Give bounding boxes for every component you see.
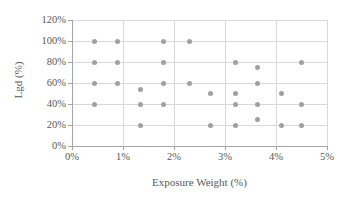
data-point [233,91,238,96]
data-point [208,123,213,128]
data-point [161,102,166,107]
y-axis-line [72,20,73,147]
data-point [187,39,192,44]
data-point [92,102,97,107]
y-axis-tick-label: 0% [52,141,66,152]
y-axis-title: Lgd (%) [12,45,24,115]
plot-area [72,20,327,146]
x-axis-tick-label: 5% [320,152,334,163]
data-point [115,60,120,65]
y-axis-tick-label: 60% [47,78,66,89]
y-axis-tick-label: 120% [42,15,67,26]
gridline-horizontal [72,125,327,126]
gridline-vertical [276,20,277,146]
data-point [161,81,166,86]
data-point [279,123,284,128]
gridline-horizontal [72,104,327,105]
data-point [115,81,120,86]
x-axis-line [72,146,328,147]
data-point [299,123,304,128]
y-axis-tick-label: 40% [47,99,66,110]
data-point [92,81,97,86]
data-point [299,60,304,65]
x-axis-tick-label: 4% [269,152,283,163]
data-point [255,81,260,86]
x-axis-title: Exposure Weight (%) [72,176,327,188]
data-point [161,39,166,44]
data-point [279,91,284,96]
data-point [161,60,166,65]
scatter-chart-figure: 0%20%40%60%80%100%120% Exposure Weight (… [0,0,355,203]
data-point [255,65,260,70]
data-point [255,117,260,122]
data-point [255,102,260,107]
data-point [208,91,213,96]
gridline-horizontal [72,83,327,84]
gridline-horizontal [72,20,327,21]
x-axis-tick-label: 1% [116,152,130,163]
gridline-horizontal [72,62,327,63]
data-point [138,123,143,128]
data-point [92,39,97,44]
y-axis-tick-label: 20% [47,120,66,131]
x-axis-tick-label: 2% [167,152,181,163]
x-axis-tick-label: 0% [65,152,79,163]
gridline-vertical [123,20,124,146]
y-axis-tick-labels: 0%20%40%60%80%100%120% [0,0,66,203]
data-point [92,60,97,65]
data-point [233,60,238,65]
gridline-horizontal [72,41,327,42]
y-axis-tick-label: 80% [47,57,66,68]
data-point [187,81,192,86]
gridline-vertical [174,20,175,146]
data-point [233,102,238,107]
gridline-vertical [327,20,328,146]
x-axis-tick-label: 3% [218,152,232,163]
data-point [138,102,143,107]
data-point [233,123,238,128]
data-point [299,102,304,107]
data-point [115,39,120,44]
data-point [138,87,143,92]
gridline-vertical [225,20,226,146]
y-axis-tick-label: 100% [42,36,67,47]
